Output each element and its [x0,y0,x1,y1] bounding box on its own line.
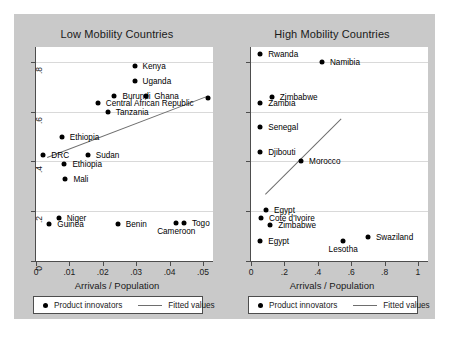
x-axis-tick [136,262,137,266]
data-point-label: Ethiopia [72,159,102,168]
x-axis-tick-label: .02 [97,267,109,277]
legend-line-marker [353,305,377,306]
data-point-label: Morocco [309,157,340,166]
data-point-label: Tanzania [116,107,149,116]
panel-high-mobility: High Mobility Countries RwandaNamibiaZim… [229,14,435,319]
data-point [132,78,137,83]
data-point-label: Togo [192,219,210,228]
x-axis-tick [203,262,204,266]
y-axis-tick [246,161,251,162]
panel-title: Low Mobility Countries [14,28,220,40]
legend-points-label: Product innovators [54,301,122,310]
data-point-label: Cameroon [157,227,195,236]
panel-low-mobility: Low Mobility Countries KenyaUgandaBurund… [14,14,220,319]
data-point-label: Ethiopia [70,132,100,141]
data-point [259,216,264,221]
data-point-label: Senegal [268,122,298,131]
plot-area: KenyaUgandaBurundiGhanaMalawiCentral Afr… [36,47,213,261]
data-point-label: Djibouti [268,147,295,156]
data-point [41,153,46,158]
y-axis-tick-label: .6 [34,117,44,124]
x-axis-title: Arrivals / Population [229,280,435,291]
y-axis-tick [246,62,251,63]
x-axis-tick-label: 0 [249,267,254,277]
data-point [264,207,269,212]
y-axis-line [35,47,36,262]
data-point [181,221,186,226]
data-point [319,59,324,64]
x-axis-tick-label: 1 [416,267,421,277]
x-axis-tick-label: .03 [130,267,142,277]
data-point-label: Zambia [268,98,295,107]
y-axis-line [250,47,251,262]
data-point [258,149,263,154]
y-axis-tick [31,211,36,212]
data-point [47,222,52,227]
data-point-label: Rwanda [268,50,298,59]
data-point-label: Kenya [143,61,166,70]
panel-title: High Mobility Countries [229,28,435,40]
x-axis-line [250,261,428,262]
data-point-label: Egypt [268,236,289,245]
x-axis-title: Arrivals / Population [14,280,220,291]
x-axis-tick-label: .05 [197,267,209,277]
y-axis-tick-label: .8 [34,67,44,74]
data-point [85,153,90,158]
data-point [341,238,346,243]
chart-legend: Product innovators Fitted values [248,296,418,314]
x-axis-tick [351,262,352,266]
x-axis-tick-label: .8 [381,267,388,277]
chart-legend: Product innovators Fitted values [33,296,203,314]
data-point-label: Sudan [96,151,120,160]
data-point [59,134,64,139]
y-axis-tick-label: 0 [34,266,44,271]
data-point-label: Swaziland [376,233,413,242]
data-point [268,222,273,227]
legend-line-label: Fitted values [168,301,214,310]
plot-area: RwandaNamibiaZimbabweZambiaSenegalDjibou… [251,47,428,261]
data-point [95,100,100,105]
x-axis-line [35,261,213,262]
legend-points-label: Product innovators [269,301,337,310]
x-axis-tick [103,262,104,266]
data-point-label: Guinea [57,220,83,229]
x-axis-tick-label: .04 [164,267,176,277]
data-point-label: Zimbabwe [278,220,316,229]
y-axis-tick-label: .4 [34,166,44,173]
data-point [105,109,110,114]
data-point [174,221,179,226]
data-point [112,93,117,98]
data-point-label: Uganda [143,76,172,85]
x-axis-tick [251,262,252,266]
y-axis-tick [31,62,36,63]
data-point [205,96,210,101]
data-point [62,161,67,166]
x-axis-tick-label: .6 [348,267,355,277]
grid-line [36,62,213,63]
data-point-label: DRC [51,151,69,160]
y-axis-tick [31,161,36,162]
y-axis-tick [246,211,251,212]
data-point [258,100,263,105]
x-axis-tick-label: .01 [63,267,75,277]
legend-line-marker [138,305,162,306]
x-axis-tick [69,262,70,266]
legend-point-marker [43,303,48,308]
data-point [258,124,263,129]
grid-line [36,211,213,212]
figure-canvas: Low Mobility Countries KenyaUgandaBurund… [14,14,435,319]
data-point-label: Benin [126,220,147,229]
data-point [258,238,263,243]
data-point [132,63,137,68]
data-point [144,93,149,98]
data-point [299,159,304,164]
data-point [115,222,120,227]
y-axis-tick [31,112,36,113]
x-axis-tick-label: .2 [281,267,288,277]
x-axis-tick [385,262,386,266]
x-axis-tick [170,262,171,266]
data-point-label: Central African Republic [106,98,194,107]
x-axis-tick-label: .4 [314,267,321,277]
y-axis-tick [246,112,251,113]
data-point [258,52,263,57]
